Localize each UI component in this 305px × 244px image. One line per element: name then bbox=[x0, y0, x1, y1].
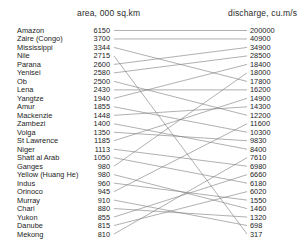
river-name-label: Mekong bbox=[17, 230, 43, 239]
discharge-value: 317 bbox=[250, 230, 262, 239]
area-value: 810 bbox=[74, 230, 110, 239]
table-row[interactable]: Mekong810317 bbox=[0, 230, 305, 239]
slopegraph-chart: area, 000 sq.km discharge, cu.m/s Amazon… bbox=[0, 0, 305, 244]
plot-area: Amazon6150200000Zaire (Congo)370040900Mi… bbox=[0, 0, 305, 244]
